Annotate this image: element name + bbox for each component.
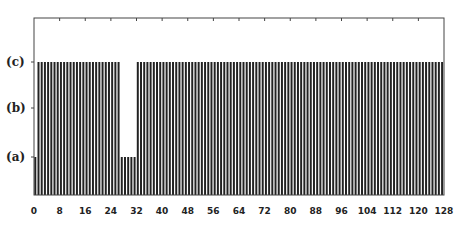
bar: [150, 62, 152, 195]
bar: [422, 62, 424, 195]
bar: [326, 62, 328, 195]
x-tick-label: 32: [130, 206, 143, 216]
bar: [102, 62, 104, 195]
bar: [162, 62, 164, 195]
bar: [79, 62, 81, 195]
x-tick-label: 40: [156, 206, 169, 216]
bar: [303, 62, 305, 195]
bar: [98, 62, 100, 195]
bar: [415, 62, 417, 195]
bar: [66, 62, 68, 195]
bar: [95, 62, 97, 195]
x-tick-label: 48: [181, 206, 194, 216]
bar: [118, 62, 120, 195]
y-axis: (a)(b)(c): [6, 55, 34, 164]
bar: [182, 62, 184, 195]
bar: [114, 62, 116, 195]
bar: [63, 62, 65, 195]
bar: [70, 62, 72, 195]
y-level-label: (c): [6, 55, 25, 69]
bar: [307, 62, 309, 195]
bar: [175, 62, 177, 195]
bar: [275, 62, 277, 195]
x-tick-label: 128: [435, 206, 454, 216]
bar: [284, 62, 286, 195]
bar: [44, 62, 46, 195]
bar: [172, 62, 174, 195]
bar: [259, 62, 261, 195]
bar: [201, 62, 203, 195]
bar: [38, 62, 40, 195]
x-tick-label: 16: [79, 206, 92, 216]
bar: [335, 62, 337, 195]
bar: [387, 62, 389, 195]
bar: [396, 62, 398, 195]
bar: [246, 62, 248, 195]
bar: [60, 62, 62, 195]
x-tick-label: 112: [383, 206, 402, 216]
bar: [217, 62, 219, 195]
bar: [50, 62, 52, 195]
bar: [188, 62, 190, 195]
x-tick-label: 8: [56, 206, 62, 216]
bar: [281, 62, 283, 195]
bar: [310, 62, 312, 195]
bar: [223, 62, 225, 195]
bar: [159, 62, 161, 195]
bar: [178, 62, 180, 195]
bar: [226, 62, 228, 195]
bar: [268, 62, 270, 195]
bar: [358, 62, 360, 195]
bar: [143, 62, 145, 195]
bar: [130, 157, 132, 195]
bar: [438, 62, 440, 195]
bar: [41, 62, 43, 195]
bar: [86, 62, 88, 195]
bar: [236, 62, 238, 195]
bar: [371, 62, 373, 195]
bar: [313, 62, 315, 195]
bar: [124, 157, 126, 195]
bar: [207, 62, 209, 195]
bar: [383, 62, 385, 195]
bar: [210, 62, 212, 195]
bar: [412, 62, 414, 195]
bar: [345, 62, 347, 195]
bar: [419, 62, 421, 195]
bar: [342, 62, 344, 195]
bar: [399, 62, 401, 195]
bar: [300, 62, 302, 195]
x-tick-label: 80: [284, 206, 297, 216]
bar: [249, 62, 251, 195]
bar: [243, 62, 245, 195]
bar: [73, 62, 75, 195]
bar: [89, 62, 91, 195]
x-tick-label: 104: [358, 206, 377, 216]
bar: [428, 62, 430, 195]
bar: [137, 62, 139, 195]
bar: [105, 62, 107, 195]
bar: [265, 62, 267, 195]
bar: [380, 62, 382, 195]
bar: [76, 62, 78, 195]
bar: [57, 62, 59, 195]
bar: [153, 62, 155, 195]
bar: [367, 62, 369, 195]
bar: [185, 62, 187, 195]
bar: [92, 62, 94, 195]
bar: [271, 62, 273, 195]
x-tick-label: 120: [409, 206, 428, 216]
bar: [47, 62, 49, 195]
bar: [351, 62, 353, 195]
bar: [355, 62, 357, 195]
bar: [34, 157, 36, 195]
bar: [348, 62, 350, 195]
bar: [393, 62, 395, 195]
bars-group: [34, 62, 443, 195]
bar: [435, 62, 437, 195]
x-axis: 081624324048566472808896104112120128: [31, 206, 454, 216]
bar: [332, 62, 334, 195]
x-tick-label: 24: [105, 206, 118, 216]
bar: [255, 62, 257, 195]
bar: [169, 62, 171, 195]
